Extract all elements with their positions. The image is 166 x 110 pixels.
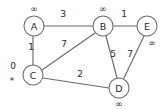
node-label-c: C xyxy=(30,70,37,81)
graph-figure: ABCDE 3171527 ∞∞0*∞∞ xyxy=(0,0,166,110)
edge-c-d xyxy=(43,78,109,88)
node-distance-d: ∞ xyxy=(115,99,123,109)
node-distance-b: ∞ xyxy=(99,4,107,14)
node-label-b: B xyxy=(100,21,107,32)
edge-weight-a-b: 3 xyxy=(60,9,66,19)
edge-weight-c-d: 2 xyxy=(77,69,83,79)
edge-weight-b-e: 1 xyxy=(121,9,127,19)
node-distance-a: ∞ xyxy=(30,4,38,14)
node-distance-e: ∞ xyxy=(148,38,156,48)
edge-weight-b-d: 5 xyxy=(110,49,116,59)
graph-canvas: ABCDE 3171527 ∞∞0*∞∞ xyxy=(0,0,166,110)
node-distance-c: 0 xyxy=(10,61,16,71)
edge-weight-d-e: 7 xyxy=(127,49,133,59)
node-label-d: D xyxy=(115,83,122,94)
edge-b-c xyxy=(42,33,95,70)
edge-weight-a-c: 1 xyxy=(28,42,34,52)
source-marker-c: * xyxy=(10,76,15,86)
node-label-a: A xyxy=(31,21,38,32)
edge-weight-b-c: 7 xyxy=(61,39,67,49)
node-label-e: E xyxy=(144,21,150,32)
